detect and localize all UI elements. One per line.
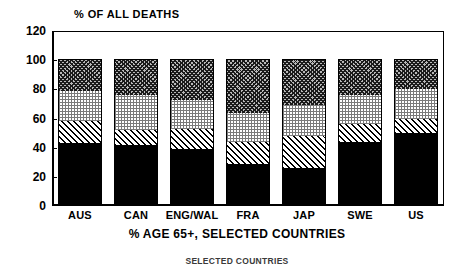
- bar-fra: [226, 60, 270, 206]
- bar-segment: [226, 163, 270, 206]
- bar-segment: [170, 148, 214, 206]
- x-tick-label-eng-wal: ENG/WAL: [166, 209, 219, 221]
- figure-caption: SELECTED COUNTRIES: [0, 256, 474, 266]
- bar-segment: [58, 59, 102, 91]
- bar-segment: [114, 144, 158, 206]
- x-tick-label-jap: JAP: [293, 209, 315, 221]
- y-tick-label: 20: [8, 170, 46, 184]
- bar-segment: [226, 141, 270, 164]
- bar-segment: [114, 59, 158, 95]
- bar-segment: [338, 59, 382, 95]
- x-tick-label-aus: AUS: [68, 209, 92, 221]
- bar-segment: [338, 94, 382, 124]
- bar-eng-wal: [170, 60, 214, 206]
- bar-segment: [282, 167, 326, 206]
- x-tick-label-swe: SWE: [347, 209, 373, 221]
- bar-segment: [226, 112, 270, 142]
- bar-segment: [114, 129, 158, 145]
- y-tick-label: 80: [8, 82, 46, 96]
- bar-segment: [394, 132, 438, 206]
- bar-us: [394, 60, 438, 206]
- chart-figure: % OF ALL DEATHS 020406080100120 AUSCANEN…: [0, 0, 474, 269]
- x-tick-label-fra: FRA: [236, 209, 259, 221]
- x-tick-label-us: US: [408, 209, 424, 221]
- bar-segment: [338, 141, 382, 206]
- bar-segment: [282, 104, 326, 136]
- bars-container: [52, 31, 444, 206]
- bar-segment: [58, 142, 102, 206]
- bar-aus: [58, 60, 102, 206]
- bar-segment: [170, 59, 214, 99]
- bar-segment: [226, 59, 270, 113]
- bar-can: [114, 60, 158, 206]
- y-tick-label: 60: [8, 112, 46, 126]
- bar-segment: [58, 90, 102, 122]
- bar-segment: [394, 59, 438, 89]
- y-tick-label: 100: [8, 53, 46, 67]
- x-axis-title: % AGE 65+, SELECTED COUNTRIES: [0, 227, 474, 241]
- bar-segment: [170, 128, 214, 149]
- x-tick-label-can: CAN: [124, 209, 148, 221]
- y-tick-label: 0: [8, 199, 46, 213]
- bar-segment: [58, 120, 102, 143]
- bar-segment: [394, 118, 438, 134]
- y-tick-label: 40: [8, 141, 46, 155]
- bar-jap: [282, 60, 326, 206]
- bar-segment: [282, 135, 326, 168]
- bar-swe: [338, 60, 382, 206]
- bar-segment: [114, 94, 158, 130]
- bar-segment: [170, 99, 214, 129]
- bar-segment: [282, 59, 326, 105]
- y-tick-label: 120: [8, 24, 46, 38]
- bar-segment: [338, 123, 382, 142]
- bar-segment: [394, 88, 438, 118]
